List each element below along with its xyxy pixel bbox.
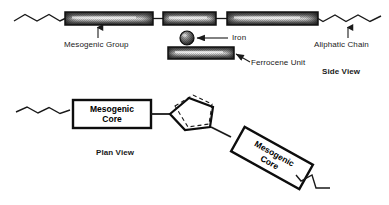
diagram-vector-layer [0, 0, 389, 205]
mesogenic-core-label-left: Mesogenic Core [73, 104, 151, 124]
leader-ferrocene-unit [236, 54, 250, 62]
iron-atom [180, 31, 194, 45]
aliphatic-chain-right [318, 15, 381, 22]
label-plan-view: Plan View [96, 148, 134, 157]
label-side-view: Side View [322, 67, 360, 76]
mesogenic-bar-right [227, 12, 318, 25]
figure-canvas: Mesogenic Group Iron Ferrocene Unit Alip… [0, 0, 389, 205]
plan-bond-right [211, 127, 231, 137]
mesogenic-bar-middle [163, 12, 216, 25]
label-aliphatic-chain: Aliphatic Chain [314, 40, 369, 49]
plan-aliphatic-chain-left [16, 107, 70, 114]
aliphatic-chain-left [14, 15, 65, 22]
ferrocene-bar [168, 47, 234, 59]
label-ferrocene-unit: Ferrocene Unit [251, 58, 305, 67]
label-iron: Iron [232, 33, 246, 42]
mesogenic-bar-left [65, 12, 153, 25]
ferrocene-ring-front [170, 98, 213, 130]
label-mesogenic-group: Mesogenic Group [64, 40, 129, 49]
